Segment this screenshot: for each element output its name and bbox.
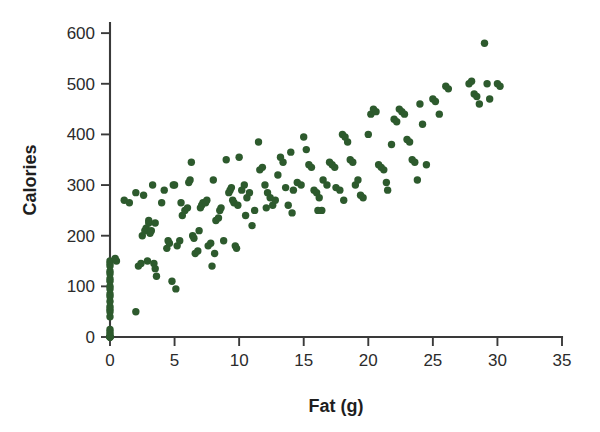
data-point [303,146,310,153]
data-point [246,189,253,196]
x-axis-tick-label: 10 [230,351,249,370]
data-point [288,209,295,216]
data-point [261,181,268,188]
data-point [393,118,400,125]
data-point [473,93,480,100]
data-point [177,199,184,206]
x-axis-tick-label: 20 [359,351,378,370]
data-point [432,98,439,105]
data-point [132,308,139,315]
data-point [217,204,224,211]
data-point [194,247,201,254]
data-point [344,138,351,145]
data-point [186,176,193,183]
x-axis-tick-label: 30 [488,351,507,370]
data-point [184,204,191,211]
data-point [152,265,159,272]
y-axis-tick-label: 200 [67,227,95,246]
data-point [208,262,215,269]
data-point [316,194,323,201]
data-point [233,245,240,252]
y-axis-tick-label: 300 [67,176,95,195]
data-point [132,189,139,196]
scatterplot-figure: 0100200300400500600 05101520253035 Fat (… [0,0,600,432]
data-point [436,110,443,117]
data-point [137,260,144,267]
data-point [383,179,390,186]
data-point [336,186,343,193]
data-point [297,181,304,188]
data-point [282,184,289,191]
data-point [220,237,227,244]
data-point [176,237,183,244]
data-point [285,202,292,209]
y-axis-title: Calories [20,144,40,215]
data-point [401,110,408,117]
data-point [223,156,230,163]
data-point [251,207,258,214]
data-point [287,148,294,155]
data-point [445,85,452,92]
data-point [290,186,297,193]
data-point [234,202,241,209]
data-point [172,285,179,292]
data-point [423,161,430,168]
data-point [279,159,286,166]
data-point [323,181,330,188]
data-point [248,222,255,229]
data-point [359,194,366,201]
scatterplot-canvas: 0100200300400500600 05101520253035 Fat (… [0,0,600,432]
data-point [300,133,307,140]
data-point [211,250,218,257]
data-point [416,100,423,107]
data-point [203,197,210,204]
data-point [241,181,248,188]
data-point [126,199,133,206]
data-point [190,235,197,242]
data-point [242,212,249,219]
data-point [314,207,321,214]
data-point [365,131,372,138]
data-point [354,176,361,183]
data-point [145,217,152,224]
data-point [331,164,338,171]
y-axis-tick-label: 500 [67,75,95,94]
data-point [153,273,160,280]
x-axis-tick-label: 5 [170,351,179,370]
data-point [380,166,387,173]
data-point [255,138,262,145]
x-axis-tick-label: 25 [423,351,442,370]
data-point [228,184,235,191]
data-point [168,278,175,285]
data-point [207,240,214,247]
data-point [476,100,483,107]
data-point [406,138,413,145]
data-point [483,80,490,87]
y-axis-tick-label: 400 [67,125,95,144]
data-point [468,78,475,85]
x-axis-title: Fat (g) [309,396,364,416]
data-point [414,176,421,183]
data-point [411,159,418,166]
data-point [272,197,279,204]
x-axis-tick-label: 0 [105,351,114,370]
data-point [164,237,171,244]
y-axis-tick-label: 0 [86,328,95,347]
data-point [340,197,347,204]
data-point [148,227,155,234]
data-point [372,108,379,115]
data-point [263,204,270,211]
data-point [235,154,242,161]
data-point [161,186,168,193]
x-axis-tick-label: 15 [294,351,313,370]
data-point [140,191,147,198]
data-point [188,159,195,166]
data-point [144,257,151,264]
data-point [259,164,266,171]
data-point [215,214,222,221]
data-point [486,95,493,102]
data-point [274,171,281,178]
data-point [195,227,202,234]
data-point [158,199,165,206]
data-point [384,186,391,193]
